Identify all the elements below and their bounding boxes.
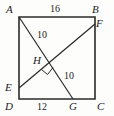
vertex-label-c: C — [97, 101, 104, 112]
geometry-figure: A B C D E F G H 16 10 10 12 — [0, 0, 114, 116]
right-angle-marker — [42, 68, 54, 75]
vertex-label-g: G — [69, 101, 77, 112]
square-abcd — [19, 17, 95, 99]
vertex-label-d: D — [5, 101, 13, 112]
vertex-label-f: F — [96, 18, 103, 29]
measure-label-hf: 10 — [64, 71, 74, 81]
vertex-label-a: A — [6, 4, 13, 15]
vertex-label-h: H — [33, 55, 41, 66]
measure-label-ab: 16 — [50, 4, 60, 14]
vertex-label-b: B — [92, 4, 99, 15]
measure-label-ah: 10 — [37, 30, 47, 40]
measure-label-dg: 12 — [37, 102, 47, 112]
vertex-label-e: E — [5, 82, 12, 93]
